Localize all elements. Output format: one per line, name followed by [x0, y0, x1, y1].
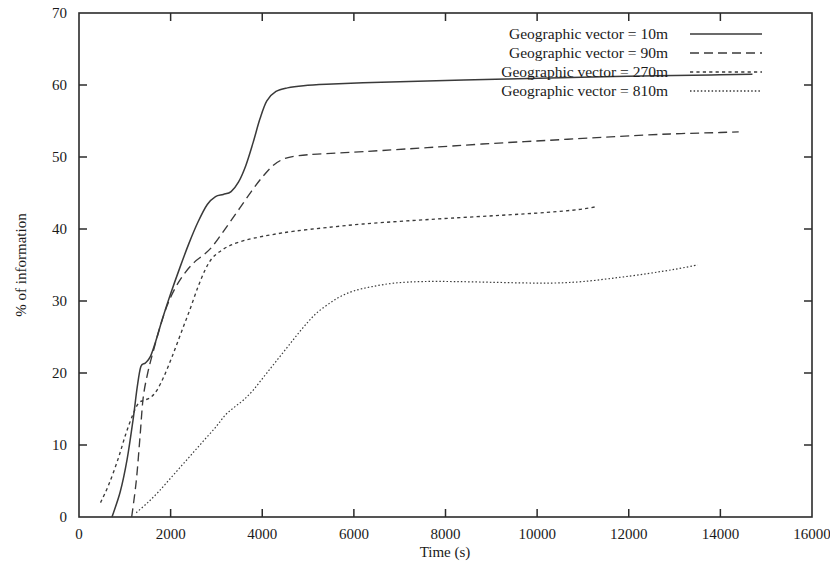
y-axis-title: % of information: [13, 213, 29, 317]
legend: Geographic vector = 10mGeographic vector…: [501, 25, 762, 99]
y-axis-tick-labels: 010203040506070: [52, 5, 67, 525]
line-chart-figure: 0200040006000800010000120001400016000 01…: [0, 0, 830, 571]
legend-label-2: Geographic vector = 270m: [501, 63, 668, 80]
x-tick-label: 16000: [793, 526, 830, 542]
y-axis-ticks: [79, 85, 812, 445]
y-tick-label: 10: [52, 437, 67, 453]
x-tick-label: 10000: [518, 526, 556, 542]
y-tick-label: 40: [52, 221, 67, 237]
x-tick-label: 14000: [702, 526, 740, 542]
legend-label-1: Geographic vector = 90m: [509, 44, 668, 61]
series-line-fine-dotted: [136, 265, 697, 513]
series-line-dotted: [101, 207, 597, 503]
y-tick-label: 30: [52, 293, 67, 309]
x-axis-title: Time (s): [420, 544, 471, 561]
x-tick-label: 2000: [156, 526, 186, 542]
plot-frame: [79, 13, 812, 517]
series-line-dashed: [132, 132, 739, 517]
x-tick-label: 6000: [339, 526, 369, 542]
y-tick-label: 50: [52, 149, 67, 165]
legend-label-3: Geographic vector = 810m: [501, 82, 668, 99]
y-tick-label: 60: [52, 77, 67, 93]
x-tick-label: 0: [75, 526, 83, 542]
data-series-group: [101, 74, 753, 517]
legend-label-0: Geographic vector = 10m: [509, 25, 668, 42]
y-tick-label: 70: [52, 5, 67, 21]
chart-canvas: 0200040006000800010000120001400016000 01…: [0, 0, 830, 571]
y-tick-label: 20: [52, 365, 67, 381]
x-axis-tick-labels: 0200040006000800010000120001400016000: [75, 526, 830, 542]
x-tick-label: 4000: [247, 526, 277, 542]
x-tick-label: 12000: [610, 526, 648, 542]
y-tick-label: 0: [60, 509, 68, 525]
x-tick-label: 8000: [431, 526, 461, 542]
series-line-solid: [112, 74, 752, 517]
